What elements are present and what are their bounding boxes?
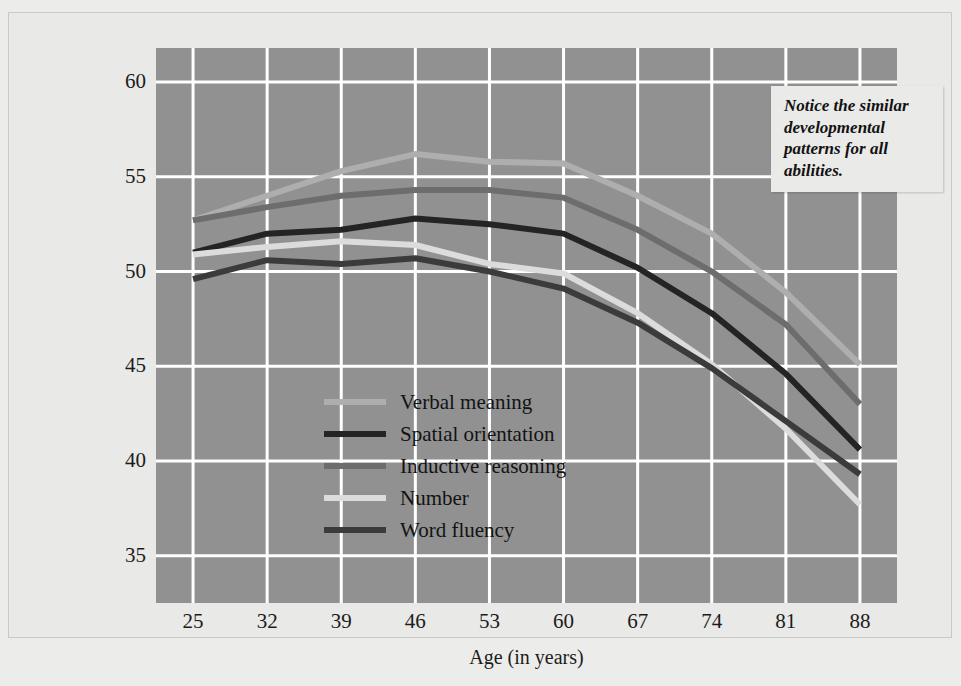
x-tick-label: 74	[682, 609, 742, 634]
legend-swatch-icon	[324, 495, 386, 501]
legend-item: Inductive reasoning	[324, 450, 604, 482]
x-tick-label: 39	[311, 609, 371, 634]
legend-item: Word fluency	[324, 514, 604, 546]
x-tick-label: 67	[608, 609, 668, 634]
legend-item: Verbal meaning	[324, 386, 604, 418]
legend-swatch-icon	[324, 431, 386, 437]
y-axis-tick-labels: 354045505560	[101, 48, 146, 603]
y-tick-label: 60	[106, 69, 146, 94]
legend-label: Spatial orientation	[400, 424, 555, 445]
legend-swatch-icon	[324, 463, 386, 469]
x-tick-label: 46	[385, 609, 445, 634]
x-tick-label: 25	[163, 609, 223, 634]
y-tick-label: 40	[106, 448, 146, 473]
y-tick-label: 55	[106, 164, 146, 189]
figure-caption	[8, 661, 952, 683]
legend-label: Word fluency	[400, 520, 514, 541]
figure-frame: Average standardized score 354045505560 …	[8, 12, 952, 638]
legend-item: Spatial orientation	[324, 418, 604, 450]
x-tick-label: 88	[830, 609, 890, 634]
x-tick-label: 53	[459, 609, 519, 634]
x-tick-label: 81	[756, 609, 816, 634]
y-tick-label: 50	[106, 259, 146, 284]
legend-label: Number	[400, 488, 469, 509]
x-axis-tick-labels: 25323946536067748188	[156, 609, 897, 643]
x-tick-label: 60	[534, 609, 594, 634]
chart-legend: Verbal meaningSpatial orientationInducti…	[324, 386, 604, 546]
annotation-callout: Notice the similar developmental pattern…	[771, 86, 943, 192]
x-tick-label: 32	[237, 609, 297, 634]
series-line-inductive-reasoning	[193, 190, 860, 404]
y-tick-label: 45	[106, 353, 146, 378]
legend-label: Inductive reasoning	[400, 456, 566, 477]
legend-item: Number	[324, 482, 604, 514]
legend-swatch-icon	[324, 527, 386, 533]
legend-swatch-icon	[324, 399, 386, 405]
y-tick-label: 35	[106, 543, 146, 568]
figure-page: Average standardized score 354045505560 …	[0, 0, 961, 686]
legend-label: Verbal meaning	[400, 392, 532, 413]
